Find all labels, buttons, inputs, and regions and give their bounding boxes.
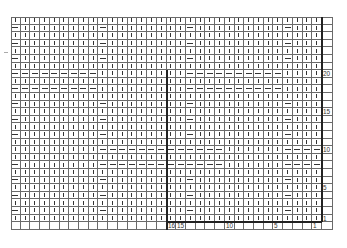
purl-stitch	[283, 40, 293, 48]
knit-stitch	[69, 207, 79, 215]
knit-stitch	[293, 101, 303, 109]
purl-stitch	[303, 146, 313, 154]
knit-stitch	[50, 131, 60, 139]
knit-stitch	[98, 169, 108, 177]
knit-stitch	[79, 146, 89, 154]
purl-stitch	[215, 85, 225, 93]
knit-stitch	[264, 192, 274, 200]
knit-stitch	[235, 93, 245, 101]
knit-stitch	[137, 169, 147, 177]
purl-stitch	[69, 70, 79, 78]
knit-stitch	[60, 17, 70, 25]
knit-stitch	[21, 63, 31, 71]
knit-stitch	[128, 177, 138, 185]
knit-stitch	[79, 108, 89, 116]
column-label-cell	[108, 222, 118, 230]
purl-stitch	[186, 70, 196, 78]
knit-stitch	[21, 47, 31, 55]
knit-stitch	[40, 207, 50, 215]
knit-stitch	[11, 215, 21, 223]
knit-stitch	[167, 55, 177, 63]
knit-stitch	[21, 199, 31, 207]
knit-stitch	[108, 192, 118, 200]
knit-stitch	[21, 108, 31, 116]
knit-stitch	[225, 184, 235, 192]
knit-stitch	[60, 93, 70, 101]
knit-stitch	[50, 146, 60, 154]
knit-stitch	[196, 55, 206, 63]
knit-stitch	[98, 47, 108, 55]
purl-stitch	[196, 146, 206, 154]
knit-stitch	[108, 40, 118, 48]
knit-stitch	[264, 207, 274, 215]
knit-stitch	[69, 108, 79, 116]
purl-stitch	[21, 70, 31, 78]
knit-stitch	[186, 184, 196, 192]
knit-stitch	[137, 192, 147, 200]
knit-stitch	[128, 154, 138, 162]
knit-stitch	[254, 47, 264, 55]
knit-stitch	[11, 199, 21, 207]
knit-stitch	[79, 101, 89, 109]
knit-stitch	[40, 93, 50, 101]
purl-stitch	[283, 25, 293, 33]
knit-stitch	[254, 139, 264, 147]
knit-stitch	[89, 161, 99, 169]
knit-stitch	[128, 169, 138, 177]
knit-stitch	[167, 199, 177, 207]
knit-stitch	[137, 215, 147, 223]
purl-stitch	[89, 70, 99, 78]
knit-stitch	[118, 131, 128, 139]
knit-stitch	[50, 207, 60, 215]
knit-stitch	[176, 101, 186, 109]
knit-stitch	[118, 116, 128, 124]
purl-stitch	[167, 161, 177, 169]
knit-stitch	[196, 93, 206, 101]
knit-stitch	[205, 25, 215, 33]
knit-stitch	[147, 25, 157, 33]
knit-stitch	[89, 25, 99, 33]
knit-stitch	[196, 116, 206, 124]
knit-stitch	[293, 207, 303, 215]
knit-stitch	[60, 116, 70, 124]
knit-stitch	[69, 139, 79, 147]
knit-stitch	[167, 47, 177, 55]
knit-stitch	[205, 116, 215, 124]
knit-stitch	[215, 169, 225, 177]
knit-stitch	[60, 207, 70, 215]
knit-stitch	[225, 55, 235, 63]
knit-stitch	[137, 131, 147, 139]
purl-stitch	[283, 101, 293, 109]
knit-stitch	[30, 131, 40, 139]
knit-stitch	[118, 177, 128, 185]
knit-stitch	[254, 101, 264, 109]
knit-stitch	[89, 139, 99, 147]
knit-stitch	[137, 32, 147, 40]
knit-stitch	[69, 40, 79, 48]
knit-stitch	[186, 123, 196, 131]
knit-stitch	[254, 17, 264, 25]
knit-stitch	[235, 116, 245, 124]
knit-stitch	[11, 47, 21, 55]
knit-stitch	[89, 177, 99, 185]
knit-stitch	[21, 40, 31, 48]
knit-stitch	[254, 25, 264, 33]
column-label-cell	[215, 222, 225, 230]
knit-stitch	[40, 199, 50, 207]
knit-stitch	[30, 47, 40, 55]
knit-stitch	[167, 85, 177, 93]
knit-stitch	[69, 161, 79, 169]
purl-stitch	[186, 207, 196, 215]
knit-stitch	[215, 40, 225, 48]
knit-stitch	[60, 146, 70, 154]
knit-stitch	[30, 161, 40, 169]
knit-stitch	[244, 177, 254, 185]
column-number-label: 16	[168, 222, 175, 230]
knit-stitch	[293, 17, 303, 25]
knit-stitch	[264, 169, 274, 177]
purl-stitch	[108, 161, 118, 169]
knit-stitch	[11, 139, 21, 147]
knit-stitch	[11, 17, 21, 25]
knit-stitch	[50, 161, 60, 169]
knit-stitch	[186, 47, 196, 55]
